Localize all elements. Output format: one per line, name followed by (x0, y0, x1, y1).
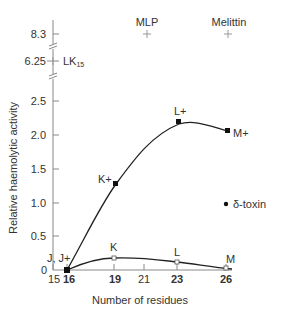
label-mlp: MLP (136, 16, 159, 28)
label-l: L (174, 246, 180, 258)
marker-k (112, 256, 116, 260)
marker-m-plus (225, 128, 230, 133)
x-tick-21: 21 (138, 273, 150, 285)
marker-delta-toxin (224, 202, 228, 206)
label-delta-toxin: δ-toxin (233, 198, 266, 210)
label-melittin: Melittin (212, 16, 247, 28)
y-axis-title: Relative haemolytic activity (7, 101, 19, 234)
y-tick-2.0: 2.0 (31, 129, 46, 141)
marker-k-plus (113, 181, 118, 186)
label-j-jplus: J, J+ (47, 252, 71, 264)
x-tick-26: 26 (220, 273, 232, 285)
label-k: K (110, 241, 118, 253)
label-lk15: LK15 (63, 55, 84, 68)
label-m: M (226, 253, 235, 265)
marker-l (175, 260, 179, 264)
label-k-plus: K+ (98, 173, 112, 185)
y-tick-8.3: 8.3 (31, 28, 46, 40)
marker-l-plus (176, 119, 181, 124)
plus-markers (53, 30, 232, 65)
x-tick-16: 16 (63, 273, 75, 285)
label-lk15-subscript: 15 (76, 61, 84, 68)
x-tick-19: 19 (109, 273, 121, 285)
y-tick-6.25: 6.25 (25, 55, 46, 67)
x-axis-title: Number of residues (92, 294, 188, 306)
y-tick-0.5: 0.5 (31, 230, 46, 242)
y-tick-0: 0 (41, 264, 47, 276)
marker-j-plus (64, 267, 70, 273)
y-tick-2.5: 2.5 (31, 95, 46, 107)
plus-series-curve (67, 122, 228, 270)
y-tick-1.0: 1.0 (31, 197, 46, 209)
x-tick-15: 15 (48, 273, 60, 285)
label-m-plus: M+ (233, 127, 249, 139)
base-series-curve (67, 258, 232, 270)
y-tick-1.5: 1.5 (31, 163, 46, 175)
x-tick-23: 23 (171, 273, 183, 285)
plus-series-markers (64, 119, 230, 273)
haemolytic-activity-chart: 8.3 6.25 2.5 2.0 1.5 1.0 0.5 0 15 16 19 … (0, 0, 285, 317)
marker-m (224, 266, 228, 270)
label-l-plus: L+ (174, 105, 187, 117)
